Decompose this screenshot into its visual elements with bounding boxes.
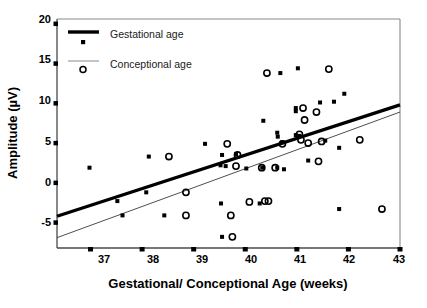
data-point-square (282, 167, 286, 171)
y-tick-mark (54, 141, 59, 146)
legend-label-gestational-age: Gestational age (110, 28, 184, 40)
data-point-square (276, 135, 280, 139)
y-axis-title: Amplitude (µV) (5, 87, 20, 179)
data-point-square (219, 163, 223, 167)
data-point-circle (300, 105, 306, 111)
data-point-square (115, 199, 119, 203)
y-tick-mark (54, 61, 59, 65)
data-point-circle (183, 212, 189, 218)
data-point-circle (301, 117, 307, 123)
data-point-circle (228, 212, 234, 218)
data-point-square (121, 213, 125, 217)
scatter-plot: 37 38 39 40 41 42 43 20 15 10 5 0 -5 Ges… (0, 0, 427, 308)
data-point-square (219, 201, 223, 205)
data-point-circle (315, 158, 321, 164)
data-point-circle (246, 199, 252, 205)
legend-square-marker-icon (81, 40, 85, 44)
data-point-circle (379, 206, 385, 212)
ytick-label-10: 10 (39, 94, 51, 106)
y-tick-mark (54, 22, 59, 27)
y-tick-mark (54, 181, 59, 186)
data-point-square (342, 92, 346, 96)
data-point-square (275, 131, 279, 135)
data-point-square (261, 119, 265, 123)
x-tick-mark (294, 247, 299, 252)
chart-legend: Gestational age Conceptional age (68, 28, 192, 73)
data-point-circle (313, 109, 319, 115)
data-point-square (337, 146, 341, 150)
data-point-square (332, 100, 336, 104)
series-conceptional-age-points (166, 66, 385, 240)
data-point-square (296, 66, 300, 70)
data-point-square (294, 109, 298, 113)
x-axis-tick-labels: 37 38 39 40 41 42 43 (98, 253, 405, 265)
data-point-square (220, 153, 224, 157)
data-point-square (244, 166, 248, 170)
data-point-square (278, 71, 282, 75)
data-point-square (203, 142, 207, 146)
trendline-thin (57, 112, 400, 238)
data-point-circle (229, 234, 235, 240)
y-tick-mark (54, 101, 59, 106)
x-tick-mark (140, 247, 145, 252)
xtick-label-43: 43 (393, 253, 405, 265)
data-point-square (162, 213, 166, 217)
data-point-circle (357, 137, 363, 143)
x-tick-mark (398, 247, 403, 252)
legend-circle-marker-icon (80, 67, 86, 73)
y-axis-tick-labels: 20 15 10 5 0 -5 (39, 13, 51, 228)
x-tick-mark (243, 247, 248, 252)
data-point-circle (224, 141, 230, 147)
ytick-label-5: 5 (45, 135, 51, 147)
x-axis-title: Gestational/ Conceptional Age (weeks) (108, 276, 347, 291)
data-point-square (144, 190, 148, 194)
chart-figure: 37 38 39 40 41 42 43 20 15 10 5 0 -5 Ges… (0, 0, 427, 308)
legend-label-conceptional-age: Conceptional age (110, 58, 192, 70)
ytick-label-0: 0 (45, 176, 51, 188)
data-point-square (306, 159, 310, 163)
x-tick-mark (346, 247, 351, 252)
x-tick-mark (191, 247, 196, 252)
xtick-label-41: 41 (294, 253, 306, 265)
ytick-label-20: 20 (39, 13, 51, 25)
data-point-circle (166, 153, 172, 159)
data-point-square (220, 235, 224, 239)
xtick-label-40: 40 (245, 253, 257, 265)
xtick-label-37: 37 (98, 253, 110, 265)
ytick-label-minus5: -5 (41, 216, 51, 228)
y-tick-mark (54, 220, 59, 225)
data-point-square (87, 166, 91, 170)
data-point-circle (264, 70, 270, 76)
data-point-circle (233, 163, 239, 169)
data-point-circle (326, 66, 332, 72)
data-point-square (318, 100, 322, 104)
data-point-square (224, 164, 228, 168)
data-point-square (147, 155, 151, 159)
ytick-label-15: 15 (39, 53, 51, 65)
x-tick-mark (88, 247, 93, 252)
xtick-label-42: 42 (343, 253, 355, 265)
xtick-label-38: 38 (147, 253, 159, 265)
data-point-square (337, 207, 341, 211)
xtick-label-39: 39 (196, 253, 208, 265)
series-gestational-age-points (87, 66, 346, 239)
trendline-thick (57, 105, 400, 216)
